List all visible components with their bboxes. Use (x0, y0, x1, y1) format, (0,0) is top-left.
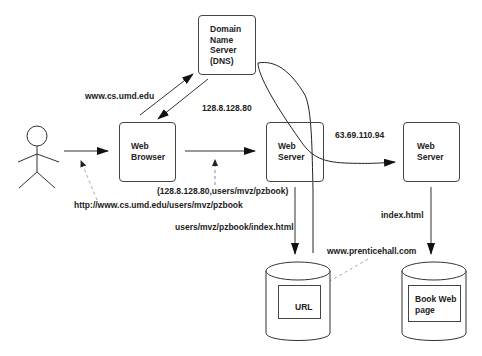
edge-dns-to-browser (158, 79, 208, 119)
label-redirect: 63.69.110.94 (335, 130, 384, 140)
node-dns-label: Domain Name Server (DNS) (210, 24, 241, 66)
url-box-label: URL (295, 302, 312, 313)
label-dns-to-browser: 128.8.128.80 (202, 103, 252, 113)
label-browser-to-server: (128.8.128.80,users/mvz/pzbook) (157, 186, 288, 196)
book-web-page-label: Book Web page (415, 294, 456, 315)
node-web-browser-label: Web Browser (131, 141, 165, 162)
node-web-server-ph-label: Web Server (417, 141, 443, 162)
user-stick-figure-icon (18, 126, 59, 188)
label-server-to-db: users/mvz/pzbook/index.html (175, 222, 294, 232)
label-ph-server-to-db: index.html (381, 210, 424, 220)
node-web-server-umd-label: Web Server (278, 141, 304, 162)
label-user-to-browser: http://www.cs.umd.edu/users/mvz/pzbook (74, 200, 243, 210)
label-url-to-ph: www.prenticehall.com (327, 246, 416, 256)
label-browser-to-dns: www.cs.umd.edu (85, 91, 154, 101)
edge-user-url-pointer (81, 161, 97, 200)
